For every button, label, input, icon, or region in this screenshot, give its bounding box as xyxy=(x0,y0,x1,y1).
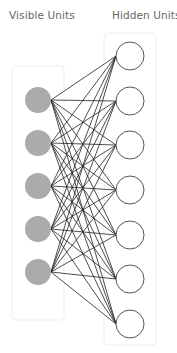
hidden-unit-5 xyxy=(116,221,144,249)
hidden-unit-3 xyxy=(116,131,144,159)
hidden-unit-4 xyxy=(116,176,144,204)
hidden-unit-7 xyxy=(116,310,144,338)
edge xyxy=(51,186,116,279)
edge xyxy=(51,56,116,229)
edge xyxy=(51,229,116,279)
edges xyxy=(51,56,116,324)
visible-unit-4 xyxy=(25,216,51,242)
hidden-unit-1 xyxy=(116,42,144,70)
hidden-layer xyxy=(116,42,144,338)
visible-layer xyxy=(25,87,51,285)
edge xyxy=(51,101,116,143)
edge xyxy=(51,143,116,324)
edge xyxy=(51,100,116,324)
edge xyxy=(51,272,116,279)
edge xyxy=(51,56,116,100)
visible-unit-1 xyxy=(25,87,51,113)
hidden-unit-6 xyxy=(116,265,144,293)
rbm-diagram xyxy=(0,0,177,353)
edge xyxy=(51,100,116,145)
edge xyxy=(51,229,116,324)
visible-unit-5 xyxy=(25,259,51,285)
edge xyxy=(51,186,116,324)
visible-unit-3 xyxy=(25,173,51,199)
visible-unit-2 xyxy=(25,130,51,156)
hidden-unit-2 xyxy=(116,87,144,115)
edge xyxy=(51,56,116,143)
